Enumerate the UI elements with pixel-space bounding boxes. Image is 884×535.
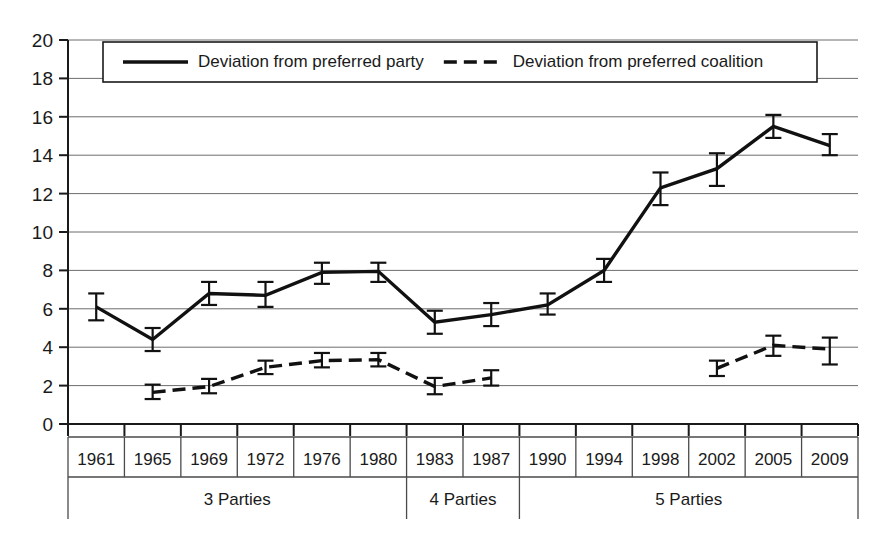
y-tick-label: 4 <box>42 337 53 358</box>
category-label: 1965 <box>134 450 172 469</box>
gridlines <box>68 40 858 386</box>
category-label: 1972 <box>247 450 285 469</box>
group-label: 5 Parties <box>655 490 722 509</box>
category-label: 1961 <box>77 450 115 469</box>
series-line-party <box>96 126 830 339</box>
legend-label-party: Deviation from preferred party <box>198 52 424 71</box>
group-label: 4 Parties <box>429 490 496 509</box>
category-label: 1969 <box>190 450 228 469</box>
line-chart: 02468101214161820 1961196519691972197619… <box>0 0 884 535</box>
category-label: 2002 <box>698 450 736 469</box>
y-tick-label: 10 <box>32 222 53 243</box>
y-tick-label: 12 <box>32 184 53 205</box>
y-tick-label: 14 <box>32 145 54 166</box>
y-tick-label: 20 <box>32 30 53 51</box>
legend-label-coalition: Deviation from preferred coalition <box>513 52 763 71</box>
y-tick-label: 2 <box>42 376 53 397</box>
category-label: 1994 <box>585 450 623 469</box>
category-label: 1983 <box>416 450 454 469</box>
chart-legend: Deviation from preferred party Deviation… <box>103 42 817 82</box>
category-label: 1990 <box>529 450 567 469</box>
category-label: 1980 <box>359 450 397 469</box>
error-bars <box>88 115 838 399</box>
y-tick-label: 16 <box>32 107 53 128</box>
category-label: 1998 <box>642 450 680 469</box>
y-tick-label: 6 <box>42 299 53 320</box>
y-tick-label: 18 <box>32 68 53 89</box>
y-axis-tickmarks <box>59 40 68 424</box>
data-series <box>96 126 830 392</box>
category-label: 2009 <box>811 450 849 469</box>
group-labels: 3 Parties4 Parties5 Parties <box>204 490 723 509</box>
category-label: 1976 <box>303 450 341 469</box>
y-tick-label: 8 <box>42 260 53 281</box>
category-label: 2005 <box>754 450 792 469</box>
category-label: 1987 <box>472 450 510 469</box>
group-label: 3 Parties <box>204 490 271 509</box>
y-axis-tick-labels: 02468101214161820 <box>32 30 54 435</box>
chart-figure: 02468101214161820 1961196519691972197619… <box>0 0 884 535</box>
x-axis-tickmarks <box>68 424 858 436</box>
y-tick-label: 0 <box>42 414 53 435</box>
